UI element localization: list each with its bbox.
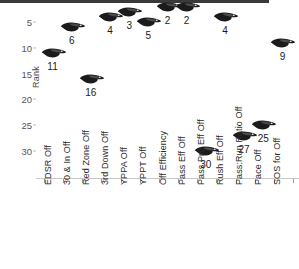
x-axis-category-label: Rush Eff Off	[215, 135, 225, 185]
data-point-value-label: 4	[107, 25, 113, 36]
data-point-value-label: 16	[85, 87, 96, 98]
data-point-marker-raven-head-logo[interactable]	[41, 46, 67, 59]
x-axis-category-label: 30 & In Off	[62, 141, 72, 185]
data-point-value-label: 5	[146, 30, 152, 41]
data-point-value-label: 2	[165, 15, 171, 26]
y-tick-label: 20	[6, 94, 32, 105]
y-tick-label: 5	[6, 17, 32, 28]
y-tick-label: 15	[6, 68, 32, 79]
y-tick-mark	[33, 22, 36, 23]
plot-area: Rank 51015202530 116164352230427259 EDSR…	[36, 4, 299, 179]
x-axis-category-label: SOS for Off	[272, 138, 282, 185]
x-axis-category-label: EDSR Off	[43, 145, 53, 185]
y-tick-mark	[33, 151, 36, 152]
data-point-marker-raven-head-logo[interactable]	[79, 72, 105, 85]
data-point-marker-raven-head-logo[interactable]	[270, 36, 296, 49]
data-point-marker-raven-head-logo[interactable]	[251, 119, 277, 132]
x-axis-category-label: Off Efficiency	[158, 131, 168, 185]
data-point-value-label: 11	[47, 61, 57, 72]
data-point-value-label: 9	[280, 51, 286, 62]
data-point-marker-raven-head-logo[interactable]	[136, 16, 162, 29]
y-tick-label: 30	[6, 146, 32, 157]
y-tick-mark	[33, 47, 36, 48]
x-axis-category-label: YPPT Off	[138, 147, 148, 185]
x-axis-category-label: Red Zone Off	[81, 130, 91, 185]
y-tick-mark	[33, 125, 36, 126]
x-axis-category-label: 3rd Down Off	[100, 131, 110, 185]
x-axis-category-label: Pace Off	[253, 149, 263, 185]
y-tick-mark	[33, 73, 36, 74]
x-axis-category-label: Pass Eff Off	[177, 136, 187, 185]
data-point-marker-raven-head-logo[interactable]	[175, 0, 201, 13]
data-point-value-label: 25	[258, 133, 269, 144]
rank-scatter-chart: Rank 51015202530 116164352230427259 EDSR…	[0, 0, 299, 269]
data-point-marker-raven-head-logo[interactable]	[60, 21, 86, 34]
y-tick-label: 10	[6, 42, 32, 53]
data-point-value-label: 2	[184, 15, 190, 26]
x-axis-category-label: YPPA Off	[119, 147, 129, 185]
data-point-value-label: 3	[126, 20, 132, 31]
data-point-value-label: 6	[69, 35, 75, 46]
x-axis-category-label: Pass Pro Eff Off	[196, 119, 206, 185]
data-point-value-label: 4	[222, 25, 228, 36]
y-tick-mark	[33, 99, 36, 100]
x-axis-category-label: Pass:Run Ratio Off	[234, 106, 244, 185]
x-tick-mark	[293, 179, 294, 183]
y-tick-label: 25	[6, 120, 32, 131]
data-point-marker-raven-head-logo[interactable]	[213, 10, 239, 23]
top-edge-band	[0, 0, 269, 3]
